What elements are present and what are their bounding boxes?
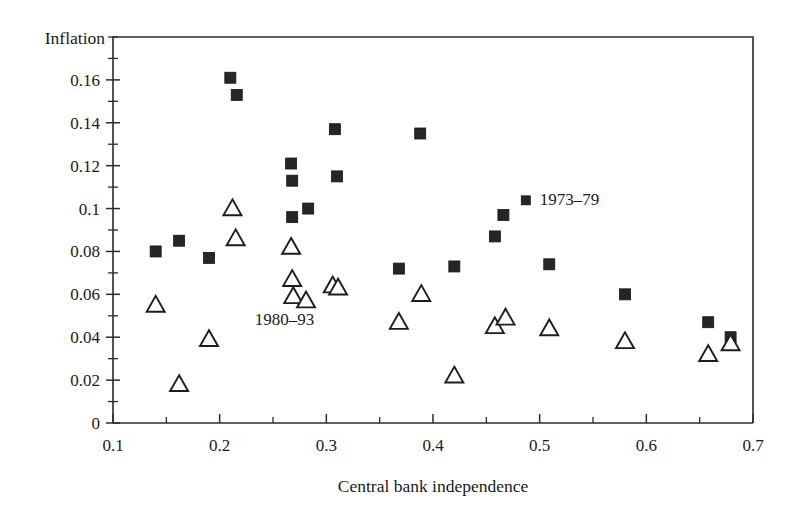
data-point-square [498, 209, 509, 220]
data-point-triangle [699, 345, 717, 361]
data-point-square [204, 252, 215, 263]
x-axis-tick-labels: 0.10.20.30.40.50.60.7 [102, 436, 764, 455]
x-tick-label: 0.2 [209, 436, 230, 455]
data-point-triangle [170, 375, 188, 391]
x-axis-ticks [113, 414, 753, 423]
y-tick-label: 0.04 [70, 328, 100, 347]
y-tick-label: 0.08 [70, 242, 100, 261]
data-point-triangle [412, 285, 430, 301]
y-axis-tick-labels: 00.020.040.060.080.10.120.140.16 [70, 71, 100, 433]
data-point-triangle [200, 330, 218, 346]
data-point-triangle [283, 270, 301, 286]
data-point-square [415, 128, 426, 139]
data-point-square [620, 289, 631, 300]
x-tick-label: 0.4 [422, 436, 444, 455]
data-point-square [286, 158, 297, 169]
data-point-triangle [445, 367, 463, 383]
data-point-triangle [497, 309, 515, 325]
data-point-triangle [616, 332, 634, 348]
x-tick-label: 0.3 [316, 436, 337, 455]
data-point-square [287, 212, 298, 223]
y-tick-label: 0.14 [70, 114, 100, 133]
data-point-triangle [147, 296, 165, 312]
x-tick-label: 0.7 [742, 436, 764, 455]
data-point-square [150, 246, 161, 257]
data-point-triangle [540, 319, 558, 335]
data-point-square [329, 124, 340, 135]
chart-canvas: 0.10.20.30.40.50.60.7 00.020.040.060.080… [0, 0, 800, 514]
data-point-triangle [284, 287, 302, 303]
data-point-triangle [223, 199, 241, 215]
data-point-square [489, 231, 500, 242]
data-point-square [287, 175, 298, 186]
annotation-marker-square [521, 196, 530, 205]
x-tick-label: 0.6 [636, 436, 657, 455]
scatter-chart-figure: 0.10.20.30.40.50.60.7 00.020.040.060.080… [0, 0, 800, 514]
data-point-triangle [390, 313, 408, 329]
data-point-square [332, 171, 343, 182]
y-tick-label: 0 [92, 414, 101, 433]
x-tick-label: 0.5 [529, 436, 550, 455]
x-axis-title: Central bank independence [338, 476, 529, 496]
data-point-square [544, 259, 555, 270]
y-tick-label: 0.06 [70, 285, 100, 304]
y-tick-label: 0.12 [70, 157, 100, 176]
x-tick-label: 0.1 [102, 436, 123, 455]
data-point-square [174, 235, 185, 246]
data-point-triangle [282, 238, 300, 254]
series-1980-93-points [147, 199, 740, 391]
data-point-square [303, 203, 314, 214]
data-point-triangle [227, 229, 245, 245]
data-point-square [703, 317, 714, 328]
series-annotation-label: 1980–93 [255, 310, 315, 329]
y-tick-label: 0.02 [70, 371, 100, 390]
data-point-square [393, 263, 404, 274]
data-point-square [449, 261, 460, 272]
plot-frame [113, 37, 753, 423]
y-tick-label: 0.1 [79, 200, 100, 219]
data-point-square [225, 72, 236, 83]
data-point-square [231, 89, 242, 100]
series-annotation-label: 1973–79 [540, 190, 600, 209]
y-tick-label: 0.16 [70, 71, 100, 90]
y-axis-title: Inflation [45, 28, 106, 48]
data-point-triangle [722, 334, 740, 350]
